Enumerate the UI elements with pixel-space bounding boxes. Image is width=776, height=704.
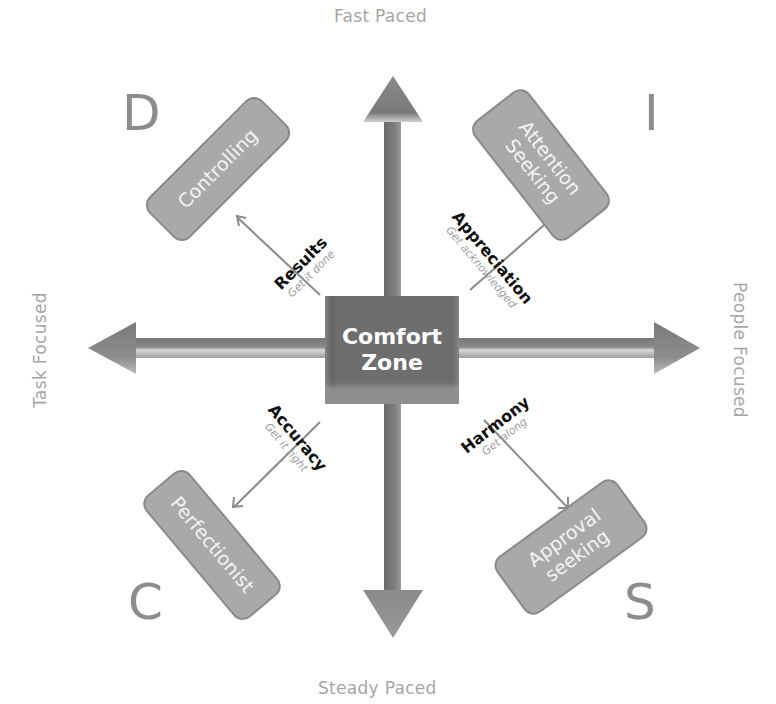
comfort-zone-line2: Zone [361,350,423,376]
axis-label-bottom: Steady Paced [318,678,437,698]
axis-label-top: Fast Paced [334,6,427,26]
quadrant-letter-d: D [122,88,161,138]
quadrant-letter-c: C [128,577,163,627]
quadrant-letter-s: S [624,577,656,627]
arrow-down-head-icon [363,590,423,638]
arrow-left-head-icon [88,322,136,374]
comfort-zone-line1: Comfort [342,324,442,350]
arrow-right-head-icon [654,322,700,374]
comfort-zone-box: Comfort Zone [325,296,459,404]
arrow-up-head-icon [363,76,423,122]
quadrant-letter-i: I [644,88,659,138]
axis-label-right: People Focused [730,280,750,420]
axis-label-left: Task Focused [30,290,50,410]
